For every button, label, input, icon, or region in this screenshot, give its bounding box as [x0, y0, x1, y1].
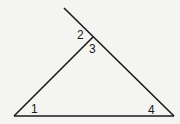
- right-side-extended-line: [64, 8, 174, 116]
- angle-label-4: 4: [148, 104, 155, 116]
- triangle-diagram: 2 3 1 4: [0, 0, 180, 124]
- angle-label-3: 3: [89, 43, 96, 55]
- angle-label-1: 1: [31, 103, 38, 115]
- left-side-line: [14, 37, 93, 116]
- angle-label-2: 2: [77, 29, 84, 41]
